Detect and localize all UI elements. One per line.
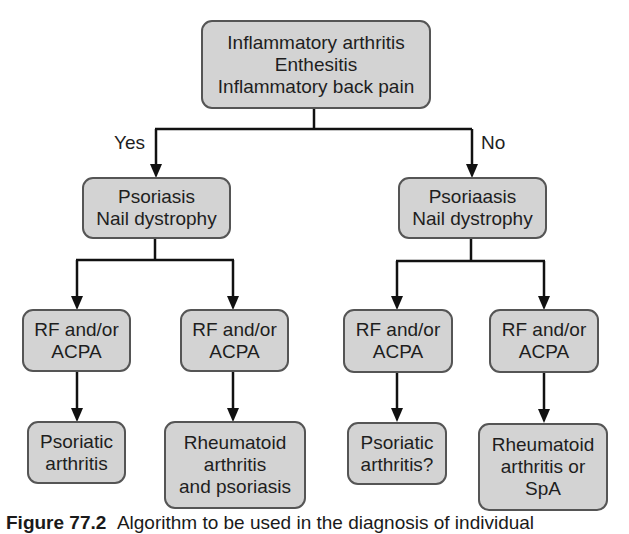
rf-acpa-node-4: RF and/or ACPA bbox=[489, 309, 599, 373]
node-line: Psoriasis bbox=[118, 186, 195, 208]
root-line-3: Inflammatory back pain bbox=[218, 76, 414, 98]
node-line: Psoriatic bbox=[40, 431, 113, 453]
node-line: arthritis or bbox=[501, 456, 585, 478]
figure-label: Figure 77.2 bbox=[6, 512, 106, 533]
psoriasis-node-no: Psoriaasis Nail dystrophy bbox=[398, 177, 547, 239]
node-line: RF and/or bbox=[34, 319, 118, 341]
no-branch-label: No bbox=[481, 132, 505, 154]
psoriasis-node-yes: Psoriasis Nail dystrophy bbox=[82, 177, 231, 239]
node-line: arthritis bbox=[204, 454, 266, 476]
rf-acpa-node-1: RF and/or ACPA bbox=[22, 309, 131, 372]
outcome-psoriatic-arthritis-uncertain: Psoriatic arthritis? bbox=[347, 422, 447, 485]
node-line: RF and/or bbox=[356, 319, 440, 341]
node-line: ACPA bbox=[373, 341, 423, 363]
node-line: Psoriaasis bbox=[429, 186, 517, 208]
root-node: Inflammatory arthritis Enthesitis Inflam… bbox=[201, 20, 431, 109]
caption-text: Algorithm to be used in the diagnosis of… bbox=[117, 512, 534, 533]
root-line-1: Inflammatory arthritis bbox=[227, 32, 404, 54]
node-line: ACPA bbox=[51, 341, 101, 363]
node-line: Psoriatic bbox=[361, 432, 434, 454]
node-line: RF and/or bbox=[502, 319, 586, 341]
rf-acpa-node-3: RF and/or ACPA bbox=[343, 309, 453, 373]
node-line: Rheumatoid bbox=[184, 432, 286, 454]
rf-acpa-node-2: RF and/or ACPA bbox=[180, 309, 289, 372]
node-line: Nail dystrophy bbox=[412, 208, 532, 230]
node-line: Rheumatoid bbox=[492, 434, 594, 456]
node-line: RF and/or bbox=[192, 319, 276, 341]
node-line: arthritis? bbox=[361, 454, 434, 476]
yes-branch-label: Yes bbox=[114, 132, 145, 154]
node-line: ACPA bbox=[209, 341, 259, 363]
node-line: arthritis bbox=[45, 453, 107, 475]
node-line: Nail dystrophy bbox=[96, 208, 216, 230]
outcome-ra-and-psoriasis: Rheumatoid arthritis and psoriasis bbox=[164, 421, 306, 509]
outcome-psoriatic-arthritis: Psoriatic arthritis bbox=[27, 421, 126, 484]
node-line: SpA bbox=[525, 478, 561, 500]
outcome-ra-or-spa: Rheumatoid arthritis or SpA bbox=[478, 423, 608, 511]
root-line-2: Enthesitis bbox=[275, 54, 357, 76]
node-line: and psoriasis bbox=[179, 476, 291, 498]
figure-caption: Figure 77.2 Algorithm to be used in the … bbox=[6, 512, 534, 534]
node-line: ACPA bbox=[519, 341, 569, 363]
